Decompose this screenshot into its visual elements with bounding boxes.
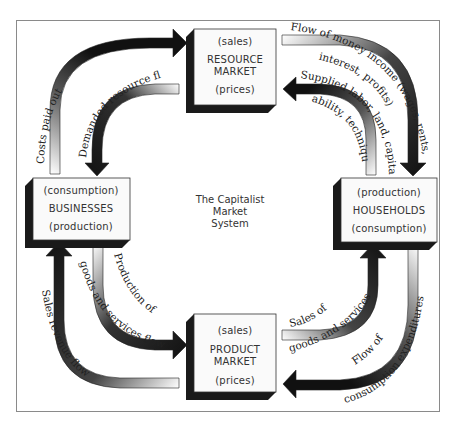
diagram-title: The Capitalist Market System	[195, 194, 265, 229]
label-consumption-line1: Flow of	[349, 331, 385, 367]
product-market-box: (sales) PRODUCT MARKET (prices)	[186, 314, 276, 400]
product-market-top-label: (sales)	[218, 325, 253, 336]
product-market-name-line1: PRODUCT	[210, 344, 261, 355]
businesses-box: (consumption) BUSINESSES (production)	[25, 178, 130, 248]
resource-market-name-line2: MARKET	[214, 66, 257, 77]
resource-market-box: (sales) RESOURCE MARKET (prices)	[186, 29, 276, 113]
households-box: (production) HOUSEHOLDS (consumption)	[333, 178, 437, 250]
households-name: HOUSEHOLDS	[353, 205, 425, 216]
product-market-bottom-label: (prices)	[215, 375, 255, 386]
title-line1: The Capitalist	[195, 194, 265, 205]
title-line3: System	[211, 218, 248, 229]
businesses-top-label: (consumption)	[43, 185, 118, 196]
product-market-name-line2: MARKET	[214, 356, 257, 367]
label-demanded-resource-flows: Demanded resource flows	[0, 0, 162, 158]
resource-market-name-line1: RESOURCE	[207, 54, 263, 65]
capitalist-market-diagram: (sales) RESOURCE MARKET (prices) (consum…	[0, 0, 459, 423]
resource-market-top-label: (sales)	[218, 36, 253, 47]
label-production-line1: Production of	[112, 251, 159, 315]
title-line2: Market	[213, 206, 247, 217]
businesses-name: BUSINESSES	[49, 203, 114, 214]
households-top-label: (production)	[357, 187, 421, 198]
businesses-bottom-label: (production)	[49, 221, 113, 232]
arrow-demanded-resource-flows	[85, 84, 179, 176]
households-bottom-label: (consumption)	[351, 223, 426, 234]
label-sales-goods-line1: Sales of	[288, 301, 329, 329]
resource-market-bottom-label: (prices)	[215, 84, 255, 95]
